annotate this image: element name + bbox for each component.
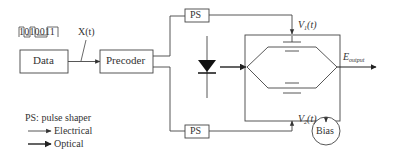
- precoder-label: Precoder: [106, 54, 145, 66]
- bias-label: Bias: [316, 125, 334, 136]
- data-label: Data: [33, 54, 54, 66]
- v2-line: [209, 121, 292, 131]
- ps-top-label: PS: [190, 9, 201, 20]
- bit-pattern: 1010011: [19, 26, 55, 37]
- bit: 1: [50, 26, 55, 37]
- v1-line: [209, 15, 292, 34]
- legend-ps-note: PS: pulse shaper: [25, 112, 91, 123]
- legend-electrical-label: Electrical: [54, 125, 92, 136]
- xt-pointer: [81, 40, 86, 61]
- legend-optical-label: Optical: [54, 138, 83, 149]
- diagram-canvas: [0, 0, 394, 160]
- ps-bottom-label: PS: [190, 125, 201, 136]
- laser-diode-icon: [198, 36, 216, 98]
- v2-label: V2(t): [298, 113, 317, 125]
- v1-label: V1(t): [298, 19, 317, 31]
- top-electrode: [283, 36, 301, 51]
- precoder-to-ps-top-line: [153, 16, 185, 56]
- output-label: Eoutput: [343, 51, 364, 63]
- mach-zehnder-interferometer: [247, 47, 337, 88]
- xt-label: X(t): [78, 26, 95, 37]
- precoder-to-ps-bottom-line: [153, 67, 185, 131]
